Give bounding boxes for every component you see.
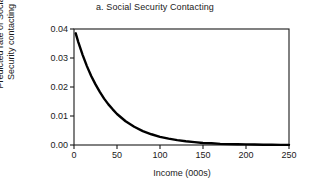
series-line-predicted-rate xyxy=(76,33,289,145)
plot-area xyxy=(0,0,310,193)
chart-figure: a. Social Security Contacting Predicted … xyxy=(0,0,310,193)
data-series-group xyxy=(76,33,289,145)
axes-frame xyxy=(74,29,289,145)
y-axis-ticks xyxy=(70,29,74,145)
